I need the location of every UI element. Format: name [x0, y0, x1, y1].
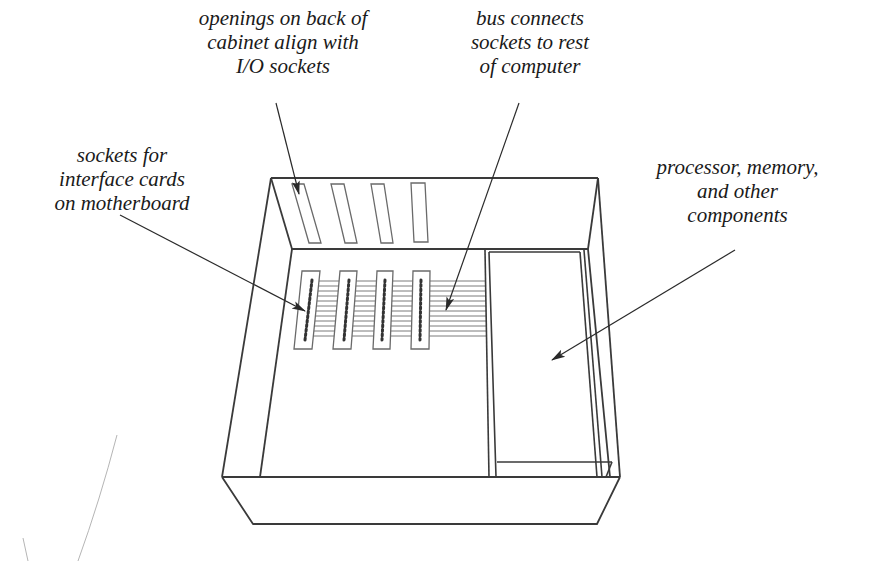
- label-sockets-for-cards: sockets for interface cards on motherboa…: [22, 143, 222, 215]
- socket-1: [294, 271, 320, 349]
- label-line: of computer: [440, 54, 620, 78]
- label-openings-on-back: openings on back of cabinet align with I…: [163, 6, 403, 78]
- label-line: I/O sockets: [163, 54, 403, 78]
- socket-3: [373, 271, 393, 349]
- label-line: cabinet align with: [163, 30, 403, 54]
- processor-arrow: [552, 250, 735, 360]
- label-line: on motherboard: [22, 191, 222, 215]
- label-processor-memory: processor, memory, and other components: [610, 155, 865, 227]
- label-line: bus connects: [440, 6, 620, 30]
- label-line: interface cards: [22, 167, 222, 191]
- bus-arrow: [446, 103, 519, 310]
- label-line: sockets to rest: [440, 30, 620, 54]
- back-io-openings: [292, 183, 428, 243]
- sockets-arrow: [120, 215, 305, 311]
- socket-2: [333, 271, 357, 349]
- socket-4: [411, 271, 430, 349]
- cabinet-outline: [222, 178, 620, 524]
- openings-arrow: [276, 103, 299, 194]
- scan-artifacts: [23, 435, 117, 561]
- interface-card-sockets: [294, 271, 430, 349]
- label-line: processor, memory,: [610, 155, 865, 179]
- label-line: openings on back of: [163, 6, 403, 30]
- label-line: and other: [610, 179, 865, 203]
- diagram-canvas: openings on back of cabinet align with I…: [0, 0, 871, 561]
- label-bus-connects: bus connects sockets to rest of computer: [440, 6, 620, 78]
- label-line: sockets for: [22, 143, 222, 167]
- label-line: components: [610, 203, 865, 227]
- cabinet-drawing: [0, 0, 871, 561]
- processor-memory-block: [485, 250, 612, 477]
